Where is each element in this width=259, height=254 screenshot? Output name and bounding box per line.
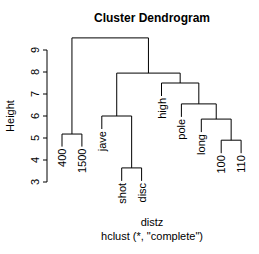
y-tick-label: 6 xyxy=(29,113,41,119)
y-tick-label: 8 xyxy=(29,69,41,75)
dendrogram-chart: Cluster Dendrogram 3456789 Height 400150… xyxy=(0,0,259,254)
leaf-label: jave xyxy=(96,131,108,152)
branch-m1 xyxy=(122,168,142,181)
x-axis-label: distz xyxy=(141,216,164,228)
chart-title: Cluster Dendrogram xyxy=(94,11,210,25)
leaf-label: pole xyxy=(175,119,187,140)
y-axis: 3456789 xyxy=(29,47,47,185)
y-tick-label: 3 xyxy=(29,179,41,185)
y-axis-label: Height xyxy=(4,100,16,132)
y-tick-label: 7 xyxy=(29,91,41,97)
leaf-label: shot xyxy=(116,183,128,204)
subtitle: hclust (*, "complete") xyxy=(101,230,203,242)
leaf-label: disc xyxy=(136,182,148,202)
branch-m2 xyxy=(221,140,241,153)
branch-m3 xyxy=(62,134,82,147)
branch-m6 xyxy=(181,104,216,119)
y-tick-label: 5 xyxy=(29,135,41,141)
leaf-label: 1500 xyxy=(76,149,88,173)
leaf-label: 400 xyxy=(56,149,68,167)
leaf-label: high xyxy=(156,98,168,119)
y-tick-label: 9 xyxy=(29,47,41,53)
y-tick-label: 4 xyxy=(29,157,41,163)
branch-m8 xyxy=(117,73,180,116)
branch-m9 xyxy=(72,38,148,134)
leaf-label: long xyxy=(195,134,207,155)
leaf-label: 110 xyxy=(235,155,247,173)
leaf-label: 100 xyxy=(215,155,227,173)
leaf-labels: 4001500javeshotdischighpolelong100110 xyxy=(56,98,247,204)
